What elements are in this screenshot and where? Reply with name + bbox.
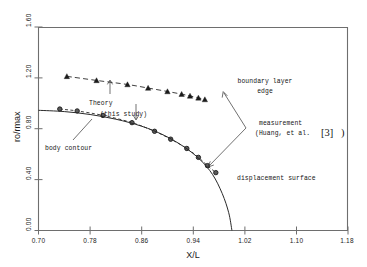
data-point-marker	[64, 74, 69, 79]
annotation-leaders	[73, 80, 246, 167]
series-line	[39, 110, 232, 230]
boundary-layer-edge-line2: edge	[257, 88, 273, 95]
y-axis-tick-labels: 0.00 0.40 0.80 1.20 1.60	[25, 13, 32, 231]
y-tick-label-2: 0.80	[25, 115, 32, 129]
x-axis-tick-labels: 0.70 0.78 0.86 0.94 1.02 1.10 1.18	[32, 237, 354, 244]
body-contour-label: body contour	[45, 145, 92, 152]
figure-container: 0.00 0.40 0.80 1.20 1.60 ro/rmax 0.70 0.…	[0, 0, 367, 267]
x-tick-label-6: 1.18	[340, 237, 354, 244]
series-layer	[39, 74, 232, 231]
data-point-marker	[179, 91, 184, 96]
boundary-layer-edge-line1: boundary layer	[237, 78, 292, 85]
annotation-measurement: measurement (Huang, et al. [3] )	[255, 120, 345, 139]
series-line	[60, 109, 216, 173]
series-body-contour	[39, 110, 232, 230]
measurement-leader-lower	[209, 128, 246, 166]
measurement-leader-upper	[224, 93, 246, 128]
x-tick-label-3: 0.94	[187, 237, 201, 244]
chart-canvas: 0.00 0.40 0.80 1.20 1.60 ro/rmax 0.70 0.…	[0, 0, 367, 267]
y-tick-label-1: 0.40	[25, 166, 32, 180]
measurement-reference: [3]	[321, 127, 333, 138]
y-axis-title: ro/rmax	[12, 111, 22, 142]
y-tick-label-4: 1.60	[25, 13, 32, 27]
y-tick-label-3: 1.20	[25, 64, 32, 78]
measurement-line2: (Huang, et al.	[255, 130, 310, 137]
x-tick-label-5: 1.10	[290, 237, 304, 244]
data-point-marker	[202, 97, 207, 102]
data-point-marker	[145, 85, 150, 90]
theory-line2: (this study)	[100, 111, 147, 118]
data-point-marker	[214, 170, 218, 174]
theory-line1: Theory	[89, 100, 113, 107]
x-tick-label-1: 0.78	[83, 237, 97, 244]
data-point-marker	[187, 93, 192, 98]
displacement-surface-label: displacement surface	[237, 175, 316, 182]
y-tick-label-0: 0.00	[25, 217, 32, 231]
data-point-marker	[58, 107, 62, 111]
measurement-closing-paren: )	[341, 127, 345, 139]
x-tick-label-2: 0.86	[135, 237, 149, 244]
axis-frame	[39, 27, 349, 231]
body-contour-leader	[73, 119, 92, 140]
x-axis-title: X/L	[186, 250, 200, 260]
x-tick-label-4: 1.02	[238, 237, 252, 244]
annotation-boundary-layer-edge: boundary layer edge	[237, 78, 292, 95]
measurement-line1: measurement	[259, 120, 302, 127]
series-boundary-layer-edge	[64, 74, 207, 102]
x-tick-label-0: 0.70	[32, 237, 46, 244]
